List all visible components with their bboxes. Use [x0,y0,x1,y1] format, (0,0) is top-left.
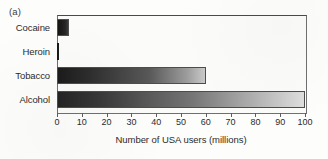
axis-tick-label: 70 [226,117,236,127]
axis-tick-label: 10 [77,117,87,127]
category-axis-labels: Cocaine Heroin Tobacco Alcohol [0,15,53,112]
bar-row-alcohol [57,88,305,112]
category-label-alcohol: Alcohol [0,88,53,112]
axis-tick-label: 20 [102,117,112,127]
axis-tick-label: 60 [201,117,211,127]
axis-tick-label: 0 [54,117,59,127]
bar-series [57,15,305,112]
axis-tick [280,113,281,117]
axis-tick-label: 90 [275,117,285,127]
bar-row-cocaine [57,15,305,39]
axis-tick-label: 30 [126,117,136,127]
category-label-heroin: Heroin [0,39,53,63]
bar-tobacco [57,67,206,84]
axis-tick [57,113,58,117]
axis-tick [156,113,157,117]
axis-tick-label: 100 [297,117,312,127]
axis-tick [131,113,132,117]
bar-row-tobacco [57,64,305,88]
category-label-cocaine: Cocaine [0,15,53,39]
axis-tick-label: 40 [151,117,161,127]
bar-alcohol [57,91,305,108]
axis-tick-label: 80 [250,117,260,127]
bar-cocaine [57,19,69,36]
figure-panel-a: (a) Cocaine Heroin Tobacco Alcohol 01020… [0,0,328,159]
axis-tick [181,113,182,117]
axis-tick [107,113,108,117]
axis-tick [255,113,256,117]
bar-heroin [57,43,59,60]
axis-tick-label: 50 [176,117,186,127]
axis-tick [231,113,232,117]
axis-tick [82,113,83,117]
value-axis: 0102030405060708090100 [57,113,305,131]
axis-tick [305,113,306,117]
bar-row-heroin [57,39,305,63]
axis-tick [206,113,207,117]
value-axis-title: Number of USA users (millions) [57,134,305,145]
category-label-tobacco: Tobacco [0,64,53,88]
